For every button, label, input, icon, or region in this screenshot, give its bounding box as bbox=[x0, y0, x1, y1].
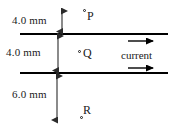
dimension-label-3: 6.0 mm bbox=[12, 88, 47, 100]
point-q-label: Q bbox=[83, 46, 92, 61]
point-p-marker bbox=[83, 9, 86, 12]
point-r-label: R bbox=[83, 103, 91, 118]
current-label: current bbox=[121, 49, 152, 61]
point-q-marker bbox=[78, 50, 81, 53]
point-r-marker bbox=[80, 116, 83, 119]
dimension-label-2: 4.0 mm bbox=[6, 46, 41, 58]
physics-diagram: 4.0 mm 4.0 mm 6.0 mm P Q R current bbox=[0, 0, 174, 127]
dimension-label-1: 4.0 mm bbox=[12, 14, 47, 26]
point-p-label: P bbox=[87, 9, 94, 24]
